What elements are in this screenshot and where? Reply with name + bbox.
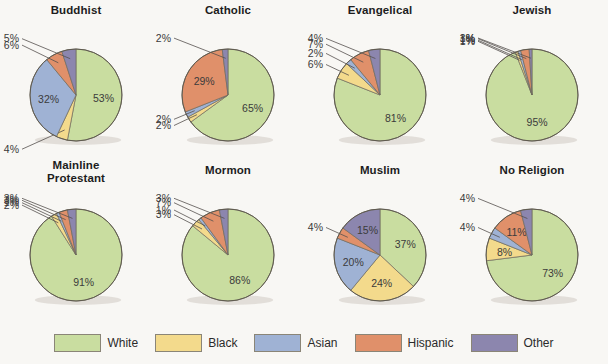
pie-svg: 86%3%1%7%3% [152, 160, 304, 320]
legend-swatch-black [155, 334, 202, 352]
legend-item-white: White [54, 334, 138, 352]
legend-swatch-hispanic [355, 334, 402, 352]
legend-label: White [107, 336, 138, 350]
pie-svg: 53%4%32%6%5% [0, 0, 152, 160]
legend-swatch-other [471, 334, 518, 352]
slice-value-label: 2% [156, 32, 171, 44]
slice-value-label: 15% [357, 224, 378, 236]
legend-item-other: Other [471, 334, 554, 352]
slice-value-label: 20% [343, 256, 364, 268]
slice-value-label: 29% [194, 75, 215, 87]
legend-label: Hispanic [408, 336, 454, 350]
pie-chart-evangelical: Evangelical81%6%2%7%4% [304, 0, 456, 160]
slice-value-label: 1% [460, 32, 475, 44]
slice-value-label: 4% [460, 192, 475, 204]
chart-legend: WhiteBlackAsianHispanicOther [0, 322, 608, 364]
legend-item-black: Black [155, 334, 237, 352]
legend-label: Asian [307, 336, 337, 350]
slice-value-label: 3% [156, 192, 171, 204]
label-leader-line [22, 200, 66, 219]
legend-item-hispanic: Hispanic [355, 334, 454, 352]
slice-value-label: 65% [242, 102, 263, 114]
pie-chart-mormon: Mormon86%3%1%7%3% [152, 160, 304, 320]
pie-chart-muslim: Muslim37%24%20%4%15% [304, 160, 456, 320]
legend-swatch-asian [254, 334, 301, 352]
pie-svg: 91%2%1%3%3% [0, 160, 152, 320]
legend-item-asian: Asian [254, 334, 337, 352]
pie-svg: 73%8%4%11%4% [456, 160, 608, 320]
pie-chart-no-religion: No Religion73%8%4%11%4% [456, 160, 608, 320]
slice-value-label: 4% [460, 221, 475, 233]
slice-value-label: 37% [395, 238, 416, 250]
label-leader-line [326, 38, 375, 58]
label-leader-line [478, 39, 526, 59]
slice-value-label: 53% [93, 92, 114, 104]
slice-value-label: 4% [308, 221, 323, 233]
pie-svg: 37%24%20%4%15% [304, 160, 456, 320]
label-leader-line [478, 41, 520, 60]
slice-value-label: 2% [156, 113, 171, 125]
label-leader-line [478, 198, 527, 218]
slice-value-label: 32% [38, 93, 59, 105]
pie-svg: 95%1%1%3%1% [456, 0, 608, 160]
label-leader-line [326, 44, 363, 62]
label-leader-line [22, 45, 58, 63]
slice-value-label: 24% [371, 277, 392, 289]
slice-value-label: 86% [229, 274, 250, 286]
slice-value-label: 4% [308, 32, 323, 44]
slice-value-label: 91% [73, 276, 94, 288]
legend-label: Black [208, 336, 237, 350]
slice-value-label: 11% [506, 226, 526, 238]
pie-chart-jewish: Jewish95%1%1%3%1% [456, 0, 608, 160]
slice-value-label: 4% [4, 143, 19, 155]
label-leader-line [478, 40, 522, 59]
slice-value-label: 6% [308, 58, 323, 70]
pie-svg: 81%6%2%7%4% [304, 0, 456, 160]
slice-value-label: 8% [497, 246, 512, 258]
slice-value-label: 73% [542, 267, 563, 279]
pie-chart-mainline-protestant: MainlineProtestant91%2%1%3%3% [0, 160, 152, 320]
pie-chart-buddhist: Buddhist53%4%32%6%5% [0, 0, 152, 160]
slice-value-label: 3% [4, 192, 19, 204]
slice-value-label: 95% [527, 116, 548, 128]
pie-chart-grid: Buddhist53%4%32%6%5%Catholic65%2%2%29%2%… [0, 0, 608, 320]
label-leader-line [174, 38, 226, 58]
slice-value-label: 81% [385, 112, 406, 124]
pie-chart-catholic: Catholic65%2%2%29%2% [152, 0, 304, 160]
label-leader-line [478, 38, 531, 58]
pie-svg: 65%2%2%29%2% [152, 0, 304, 160]
label-leader-line [174, 198, 225, 218]
legend-label: Other [524, 336, 554, 350]
slice-value-label: 5% [4, 32, 19, 44]
legend-swatch-white [54, 334, 101, 352]
